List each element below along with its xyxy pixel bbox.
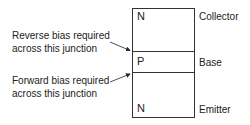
collector-region-letter: N [137, 10, 145, 22]
emitter-label: Emitter [199, 104, 231, 116]
forward-bias-arrow-icon [110, 74, 130, 82]
npn-transistor-diagram: N P N Collector Base Emitter Reverse bia… [0, 0, 250, 125]
reverse-bias-label-line1: Reverse bias required [12, 30, 110, 42]
reverse-bias-label-line2: across this junction [12, 43, 97, 55]
reverse-bias-arrow-icon [110, 42, 130, 51]
emitter-region-letter: N [137, 102, 145, 114]
base-region-letter: P [137, 55, 144, 67]
forward-bias-label-line2: across this junction [12, 88, 97, 100]
forward-bias-label-line1: Forward bias required [12, 75, 109, 87]
base-label: Base [199, 57, 222, 69]
collector-label: Collector [199, 11, 238, 23]
